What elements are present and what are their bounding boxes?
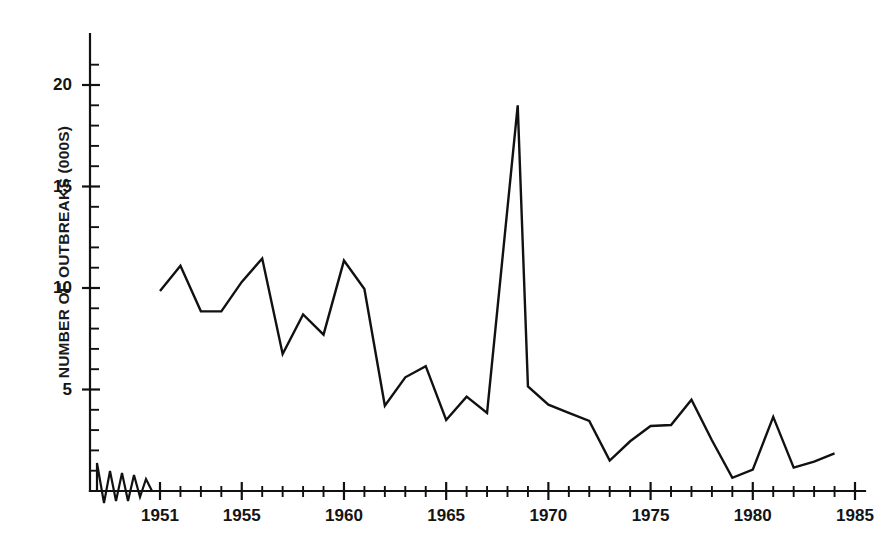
x-axis-tick-label: 1960 — [325, 506, 363, 526]
x-axis-tick-label: 1980 — [734, 506, 772, 526]
outbreaks-line-series — [160, 105, 835, 478]
y-axis-ticks — [82, 65, 100, 471]
y-axis-tick-label: 20 — [28, 75, 72, 95]
x-axis-tick-label: 1965 — [427, 506, 465, 526]
x-axis-tick-label: 1951 — [141, 506, 179, 526]
x-axis-tick-label: 1985 — [836, 506, 874, 526]
x-axis-tick-label: 1955 — [223, 506, 261, 526]
x-axis-tick-label: 1975 — [632, 506, 670, 526]
y-axis-tick-label: 15 — [28, 177, 72, 197]
chart-plot-area — [0, 0, 891, 549]
x-axis-tick-label: 1970 — [529, 506, 567, 526]
y-axis-tick-label: 5 — [28, 380, 72, 400]
chart-figure: NUMBER OF OUTBREAKS (000S) 5101520 19511… — [0, 0, 891, 549]
axis-break-zigzag-icon — [90, 463, 152, 503]
data-series-group — [160, 105, 835, 478]
axes-group — [82, 34, 865, 503]
y-axis-tick-label: 10 — [28, 278, 72, 298]
